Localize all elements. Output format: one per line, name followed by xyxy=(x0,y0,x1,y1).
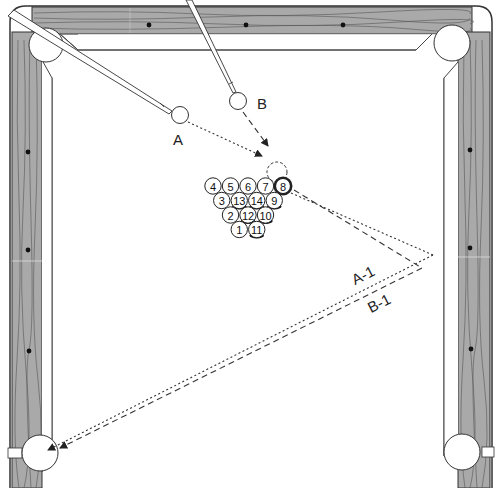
ball-6: 6 xyxy=(240,178,256,194)
svg-text:4: 4 xyxy=(210,181,216,193)
svg-text:1: 1 xyxy=(236,224,242,236)
ball-3: 3 xyxy=(214,192,230,208)
top-rail xyxy=(32,7,474,34)
table-svg: 4567831314921210111 xyxy=(0,0,500,488)
ball-7: 7 xyxy=(257,178,273,194)
svg-text:11: 11 xyxy=(251,224,262,236)
svg-text:13: 13 xyxy=(233,195,245,207)
ball-1: 1 xyxy=(231,221,247,237)
svg-text:8: 8 xyxy=(280,181,286,193)
pocket-top-right xyxy=(434,25,470,61)
ball-8: 8 xyxy=(275,178,291,194)
ball-11: 11 xyxy=(249,221,265,238)
ball-2: 2 xyxy=(222,207,238,223)
svg-text:9: 9 xyxy=(271,195,277,207)
svg-text:5: 5 xyxy=(227,181,233,193)
cue-ball-b xyxy=(230,93,247,110)
svg-text:12: 12 xyxy=(242,210,254,222)
svg-text:7: 7 xyxy=(262,181,268,193)
label-cue-ball-a: A xyxy=(173,132,183,147)
svg-text:14: 14 xyxy=(251,195,263,207)
svg-text:2: 2 xyxy=(227,210,233,222)
cloth-surface xyxy=(78,34,462,50)
right-rail xyxy=(458,32,490,488)
ball-5: 5 xyxy=(222,178,238,194)
cue-ball-a xyxy=(172,107,189,124)
svg-text:10: 10 xyxy=(259,210,271,222)
ball-4: 4 xyxy=(205,178,221,194)
svg-text:6: 6 xyxy=(245,181,251,193)
svg-text:3: 3 xyxy=(219,195,225,207)
pool-diagram: 4567831314921210111 A B A-1 B-1 xyxy=(0,0,500,488)
left-rail xyxy=(12,32,42,488)
label-cue-ball-b: B xyxy=(257,96,267,111)
